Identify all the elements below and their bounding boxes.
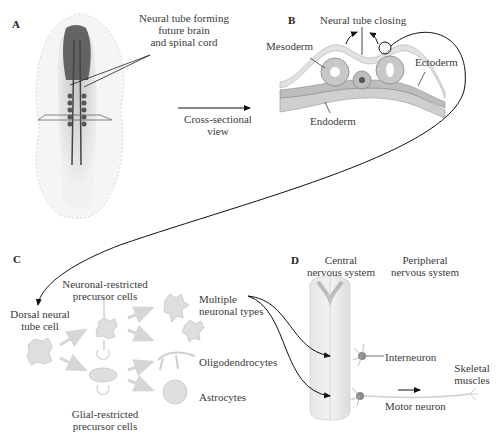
- endoderm-label: Endoderm: [310, 115, 356, 127]
- skeletal-muscles-label: Skeletal muscles: [450, 362, 494, 386]
- label-line: tube cell: [6, 320, 74, 332]
- spinal-cord-illustration: [310, 276, 478, 420]
- panel-letter-a: A: [12, 18, 20, 30]
- panel-letter-c: C: [13, 253, 21, 265]
- glial-restricted-label: Glial-restricted precursor cells: [65, 408, 145, 432]
- label-line: nervous system: [303, 266, 379, 278]
- motor-neuron-label: Motor neuron: [385, 400, 446, 412]
- mesoderm-label: Mesoderm: [266, 40, 313, 52]
- label-line: view: [176, 125, 260, 137]
- label-line: Neural tube forming: [124, 12, 244, 24]
- neural-tube-forming-label: Neural tube forming future brain and spi…: [124, 12, 244, 48]
- label-line: Peripheral: [384, 254, 466, 266]
- panel-letter-b: B: [288, 14, 295, 26]
- neural-tube-closing-label: Neural tube closing: [320, 14, 406, 26]
- label-line: Central: [303, 254, 379, 266]
- label-line: Cross-sectional: [176, 113, 260, 125]
- label-line: future brain: [124, 24, 244, 36]
- label-line: Multiple: [199, 293, 263, 305]
- label-line: neuronal types: [199, 305, 263, 317]
- label-line: muscles: [450, 374, 494, 386]
- label-line: and spinal cord: [124, 36, 244, 48]
- multiple-neuronal-types-label: Multiple neuronal types: [199, 293, 263, 317]
- panel-letter-d: D: [291, 254, 299, 266]
- dorsal-neural-tube-cell-label: Dorsal neural tube cell: [6, 308, 74, 332]
- neuronal-restricted-label: Neuronal-restricted precursor cells: [55, 278, 155, 302]
- interneuron-label: Interneuron: [385, 351, 436, 363]
- oligodendrocytes-label: Oligodendrocytes: [199, 356, 277, 368]
- label-line: precursor cells: [55, 290, 155, 302]
- central-nervous-system-label: Central nervous system: [303, 254, 379, 278]
- peripheral-nervous-system-label: Peripheral nervous system: [384, 254, 466, 278]
- label-line: Neuronal-restricted: [55, 278, 155, 290]
- cross-sectional-view-label: Cross-sectional view: [176, 113, 260, 137]
- ectoderm-label: Ectoderm: [415, 56, 458, 68]
- label-line: precursor cells: [65, 420, 145, 432]
- label-line: Dorsal neural: [6, 308, 74, 320]
- label-line: nervous system: [384, 266, 466, 278]
- label-line: Skeletal: [450, 362, 494, 374]
- label-line: Glial-restricted: [65, 408, 145, 420]
- astrocytes-label: Astrocytes: [199, 391, 246, 403]
